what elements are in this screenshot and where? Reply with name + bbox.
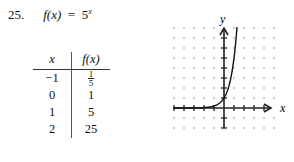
function-graph: x y [0,0,294,162]
y-axis-label: y [219,12,226,26]
x-axis-label: x [279,101,286,115]
exponential-curve [174,27,237,108]
axis-ticks [174,38,264,128]
